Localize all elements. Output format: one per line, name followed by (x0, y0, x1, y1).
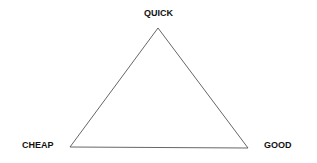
vertex-label-quick: QUICK (144, 8, 173, 18)
triangle-diagram (0, 0, 317, 163)
vertex-label-good: GOOD (264, 140, 292, 150)
vertex-label-cheap: CHEAP (22, 140, 54, 150)
triangle-shape (70, 28, 248, 148)
